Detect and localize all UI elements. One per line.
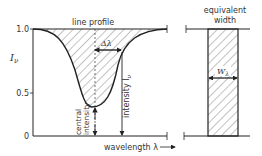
intensity-label: intensity Iν (122, 74, 132, 118)
central-label-line2: intensity (82, 102, 91, 135)
tick-label-1: 1.0 (16, 25, 29, 34)
line-profile-diagram: 1.0 0.5 0 Iν line profile Δλ intensity I… (0, 0, 262, 156)
line-profile-label: line profile (72, 18, 114, 27)
equivalent-width-box (208, 29, 238, 136)
equivalent-width-label-2: width (214, 16, 236, 25)
equivalent-width-label-1: equivalent (204, 6, 246, 15)
delta-lambda-label: Δλ (100, 39, 112, 48)
tick-label-0: 0 (24, 132, 29, 141)
absorption-area (33, 29, 167, 107)
y-axis-label: Iν (9, 52, 19, 65)
tick-label-05: 0.5 (16, 89, 29, 98)
wavelength-label: wavelength λ (104, 143, 158, 152)
